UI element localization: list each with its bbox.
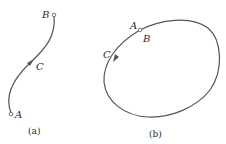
panel-a: A B C (a) xyxy=(9,9,56,136)
label-c: C xyxy=(103,49,111,60)
open-path-curve xyxy=(9,16,55,113)
figure-svg: A B C (a) A B C (b) xyxy=(0,0,226,144)
caption-a: (a) xyxy=(28,126,40,136)
point-a-marker xyxy=(9,112,13,116)
label-a: A xyxy=(129,20,137,31)
caption-b: (b) xyxy=(149,129,162,139)
figure: A B C (a) A B C (b) xyxy=(0,0,226,144)
direction-arrow-icon xyxy=(113,54,119,62)
closed-loop-curve xyxy=(104,20,220,117)
label-a: A xyxy=(14,109,22,120)
point-b-marker xyxy=(52,13,56,17)
label-b: B xyxy=(41,9,49,20)
panel-b: A B C (b) xyxy=(103,20,220,139)
label-c: C xyxy=(36,61,44,72)
point-ab-marker xyxy=(138,28,142,32)
label-b: B xyxy=(142,33,150,44)
